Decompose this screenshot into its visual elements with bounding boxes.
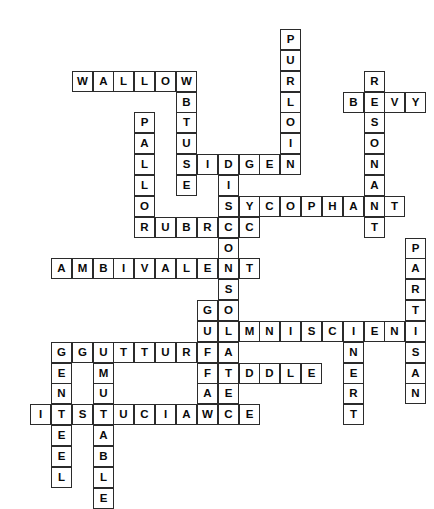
crossword-cell[interactable]: E: [364, 92, 385, 113]
crossword-cell[interactable]: P: [280, 29, 301, 50]
crossword-cell[interactable]: I: [218, 175, 239, 196]
crossword-cell[interactable]: H: [322, 196, 343, 217]
crossword-cell[interactable]: B: [343, 92, 364, 113]
crossword-cell[interactable]: T: [176, 112, 197, 133]
crossword-cell[interactable]: V: [384, 92, 405, 113]
crossword-cell[interactable]: I: [155, 404, 176, 425]
crossword-cell[interactable]: B: [93, 446, 114, 467]
crossword-cell[interactable]: A: [343, 196, 364, 217]
crossword-cell[interactable]: N: [384, 321, 405, 342]
crossword-cell[interactable]: T: [113, 342, 134, 363]
crossword-cell[interactable]: I: [280, 133, 301, 154]
crossword-cell[interactable]: L: [218, 321, 239, 342]
crossword-cell[interactable]: C: [218, 404, 239, 425]
crossword-cell[interactable]: N: [280, 154, 301, 175]
crossword-cell[interactable]: S: [218, 279, 239, 300]
crossword-cell[interactable]: G: [239, 154, 260, 175]
crossword-cell[interactable]: U: [176, 133, 197, 154]
crossword-cell[interactable]: S: [72, 404, 93, 425]
crossword-cell[interactable]: I: [197, 154, 218, 175]
crossword-cell[interactable]: R: [364, 71, 385, 92]
crossword-cell[interactable]: O: [134, 196, 155, 217]
crossword-cell[interactable]: A: [155, 258, 176, 279]
crossword-cell[interactable]: U: [93, 383, 114, 404]
crossword-cell[interactable]: U: [155, 342, 176, 363]
crossword-cell[interactable]: W: [197, 404, 218, 425]
crossword-cell[interactable]: Y: [239, 196, 260, 217]
crossword-cell[interactable]: E: [176, 175, 197, 196]
crossword-cell[interactable]: N: [364, 154, 385, 175]
crossword-cell[interactable]: E: [301, 363, 322, 384]
crossword-cell[interactable]: E: [93, 488, 114, 509]
crossword-cell[interactable]: M: [93, 363, 114, 384]
crossword-cell[interactable]: R: [176, 342, 197, 363]
crossword-cell[interactable]: V: [134, 258, 155, 279]
crossword-cell[interactable]: O: [364, 133, 385, 154]
crossword-cell[interactable]: U: [113, 404, 134, 425]
crossword-cell[interactable]: L: [280, 363, 301, 384]
crossword-cell[interactable]: E: [343, 363, 364, 384]
crossword-cell[interactable]: T: [51, 404, 72, 425]
crossword-cell[interactable]: L: [134, 71, 155, 92]
crossword-cell[interactable]: D: [259, 363, 280, 384]
crossword-cell[interactable]: L: [113, 71, 134, 92]
crossword-cell[interactable]: L: [176, 258, 197, 279]
crossword-cell[interactable]: B: [93, 258, 114, 279]
crossword-cell[interactable]: B: [176, 217, 197, 238]
crossword-cell[interactable]: E: [51, 446, 72, 467]
crossword-cell[interactable]: C: [134, 404, 155, 425]
crossword-cell[interactable]: O: [280, 112, 301, 133]
crossword-cell[interactable]: O: [218, 238, 239, 259]
crossword-cell[interactable]: M: [72, 258, 93, 279]
crossword-cell[interactable]: E: [259, 154, 280, 175]
crossword-cell[interactable]: N: [218, 258, 239, 279]
crossword-cell[interactable]: E: [197, 258, 218, 279]
crossword-cell[interactable]: R: [197, 217, 218, 238]
crossword-cell[interactable]: I: [280, 321, 301, 342]
crossword-cell[interactable]: L: [280, 92, 301, 113]
crossword-cell[interactable]: S: [218, 196, 239, 217]
crossword-cell[interactable]: T: [239, 258, 260, 279]
crossword-cell[interactable]: T: [405, 300, 426, 321]
crossword-cell[interactable]: L: [51, 467, 72, 488]
crossword-cell[interactable]: R: [134, 217, 155, 238]
crossword-cell[interactable]: N: [259, 321, 280, 342]
crossword-cell[interactable]: A: [134, 133, 155, 154]
crossword-cell[interactable]: R: [405, 279, 426, 300]
crossword-cell[interactable]: I: [113, 258, 134, 279]
crossword-cell[interactable]: C: [322, 321, 343, 342]
crossword-cell[interactable]: I: [343, 321, 364, 342]
crossword-cell[interactable]: A: [405, 363, 426, 384]
crossword-cell[interactable]: W: [72, 71, 93, 92]
crossword-cell[interactable]: U: [155, 217, 176, 238]
crossword-cell[interactable]: G: [72, 342, 93, 363]
crossword-cell[interactable]: S: [405, 342, 426, 363]
crossword-cell[interactable]: G: [197, 300, 218, 321]
crossword-cell[interactable]: E: [239, 404, 260, 425]
crossword-cell[interactable]: T: [343, 404, 364, 425]
crossword-cell[interactable]: E: [51, 425, 72, 446]
crossword-cell[interactable]: A: [197, 383, 218, 404]
crossword-cell[interactable]: B: [176, 92, 197, 113]
crossword-cell[interactable]: F: [197, 342, 218, 363]
crossword-cell[interactable]: D: [239, 363, 260, 384]
crossword-cell[interactable]: T: [218, 363, 239, 384]
crossword-cell[interactable]: Y: [405, 92, 426, 113]
crossword-cell[interactable]: N: [364, 196, 385, 217]
crossword-cell[interactable]: C: [239, 217, 260, 238]
crossword-cell[interactable]: A: [93, 71, 114, 92]
crossword-cell[interactable]: L: [134, 175, 155, 196]
crossword-cell[interactable]: C: [259, 196, 280, 217]
crossword-cell[interactable]: T: [364, 217, 385, 238]
crossword-cell[interactable]: N: [343, 342, 364, 363]
crossword-cell[interactable]: A: [93, 425, 114, 446]
crossword-cell[interactable]: N: [405, 383, 426, 404]
crossword-cell[interactable]: T: [384, 196, 405, 217]
crossword-cell[interactable]: U: [197, 321, 218, 342]
crossword-cell[interactable]: U: [280, 50, 301, 71]
crossword-cell[interactable]: S: [301, 321, 322, 342]
crossword-cell[interactable]: R: [280, 71, 301, 92]
crossword-cell[interactable]: I: [30, 404, 51, 425]
crossword-cell[interactable]: R: [343, 383, 364, 404]
crossword-cell[interactable]: A: [51, 258, 72, 279]
